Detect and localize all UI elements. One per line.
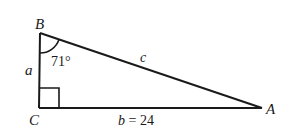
vertex-label-b: B	[35, 16, 44, 32]
vertex-label-a: A	[265, 101, 276, 117]
right-angle-marker	[39, 88, 59, 108]
side-label-a: a	[25, 62, 33, 78]
angle-arc-b	[40, 40, 59, 54]
side-label-b: b = 24	[118, 113, 154, 128]
side-c	[40, 33, 262, 108]
vertex-label-c: C	[29, 112, 40, 128]
side-label-c: c	[140, 50, 147, 65]
side-a	[39, 33, 40, 108]
triangle-svg: B C A a c 71° b = 24	[0, 0, 285, 131]
angle-label-b: 71°	[51, 54, 71, 69]
triangle-diagram: B C A a c 71° b = 24	[0, 0, 285, 131]
